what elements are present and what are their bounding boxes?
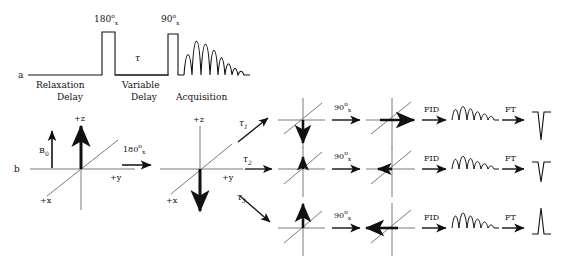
- row1-axes-before: [278, 98, 325, 148]
- svg-text:90ox: 90ox: [334, 100, 352, 113]
- panel-a-letter: a: [18, 70, 24, 80]
- row3-pulse-phase: x: [348, 214, 352, 221]
- row1-ft-label: FT: [505, 105, 517, 114]
- row1-pulse-angle: 90: [334, 103, 344, 112]
- row3-spectrum-peak: [532, 208, 551, 234]
- row1-axes-after: [366, 98, 415, 148]
- row3-fid-waveform: [452, 213, 499, 228]
- axis-label-x-frame2: +x: [166, 196, 178, 205]
- branch-row-tau3: 90ox FID FT: [278, 203, 551, 256]
- row1-fid-waveform: [452, 107, 499, 121]
- sequence-segment-captions: Relaxation Delay Variable Delay Acquisit…: [36, 80, 227, 102]
- acquisition-label: Acquisition: [175, 92, 227, 102]
- row2-pulse-phase: x: [348, 155, 352, 162]
- axis-label-y-frame1: +y: [110, 173, 122, 182]
- acquisition-fid-waveform: [184, 41, 250, 75]
- tau-branch-arrows: τ1 τ2 τ3: [237, 118, 272, 222]
- row2-spectrum-peak: [532, 162, 551, 182]
- pulse-180-phase: x: [115, 19, 119, 26]
- axis-label-z-frame1: +z: [74, 114, 85, 123]
- row3-ft-label: FT: [505, 213, 517, 222]
- svg-text:90ox: 90ox: [161, 12, 180, 26]
- axis-label-x-frame1: +x: [40, 196, 52, 205]
- tau2-label: τ2: [243, 154, 252, 166]
- row1-fid-arrow: FID: [422, 105, 446, 120]
- row1-fid-label: FID: [424, 105, 439, 114]
- row1-pulse-90: 90ox: [332, 100, 360, 120]
- tau1-label: τ1: [239, 118, 248, 130]
- transition-180-pulse: 180ox: [122, 142, 151, 165]
- row2-pulse-angle: 90: [334, 152, 344, 161]
- svg-text:90ox: 90ox: [334, 208, 352, 221]
- row2-fid-arrow: FID: [422, 154, 446, 169]
- branch-row-tau2: 90ox FID FT: [278, 147, 551, 197]
- row1-ft-arrow: FT: [502, 105, 524, 120]
- panel-a-pulse-sequence: a 180ox 90ox τ Relaxation Delay: [18, 12, 250, 102]
- pulse-90-degree: o: [172, 12, 176, 19]
- row2-pulse-90: 90ox: [332, 149, 360, 169]
- pulse-90-phase: x: [176, 19, 180, 26]
- vector-frame-equilibrium: B0 +z +y +x: [30, 114, 135, 210]
- panel-b-vector-model: b B0 +z +y +x 180ox: [14, 98, 551, 256]
- row3-pulse-90: 90ox: [332, 208, 360, 228]
- pulse-90-angle: 90: [161, 14, 173, 24]
- transition-180-angle: 180: [123, 145, 138, 154]
- svg-text:90ox: 90ox: [334, 149, 352, 162]
- vector-frame-inverted: +z +y +x: [160, 115, 243, 212]
- row2-state-after: [366, 147, 415, 197]
- row1-state-before: [278, 98, 325, 148]
- row2-ft-label: FT: [505, 154, 517, 163]
- variable-delay-line2: Delay: [131, 92, 158, 102]
- row1-state-after: [366, 98, 415, 148]
- tau3-label: τ3: [237, 192, 246, 204]
- row3-fid-label: FID: [424, 213, 439, 222]
- svg-text:180ox: 180ox: [94, 12, 119, 26]
- axis-label-z-frame2: +z: [193, 115, 204, 124]
- variable-delay-tau-symbol: τ: [135, 53, 141, 63]
- variable-delay-line1: Variable: [121, 80, 160, 90]
- relaxation-delay-line2: Delay: [57, 92, 84, 102]
- b0-label: B0: [39, 146, 49, 157]
- row3-ft-arrow: FT: [502, 213, 524, 228]
- row2-axes-before: [278, 147, 325, 197]
- row3-fid-arrow: FID: [422, 213, 446, 228]
- row2-ft-arrow: FT: [502, 154, 524, 169]
- pulse-label-180: 180ox: [94, 12, 119, 26]
- row2-state-before: [278, 147, 325, 197]
- pulse-sequence-trace: [28, 32, 184, 75]
- row2-fid-label: FID: [424, 154, 439, 163]
- svg-text:180ox: 180ox: [123, 142, 146, 155]
- row3-axes-before: [278, 203, 325, 256]
- pulse-180-degree: o: [111, 12, 115, 19]
- row2-axes-after: [366, 147, 415, 197]
- figure-canvas: a 180ox 90ox τ Relaxation Delay: [0, 0, 561, 269]
- relaxation-delay-line1: Relaxation: [36, 80, 85, 90]
- axis-label-y-frame2: +y: [222, 173, 234, 182]
- inversion-recovery-figure: a 180ox 90ox τ Relaxation Delay: [0, 0, 561, 269]
- row1-pulse-phase: x: [348, 106, 352, 113]
- row3-axes-after: [366, 203, 415, 256]
- transition-180-phase: x: [142, 148, 146, 155]
- pulse-180-angle: 180: [94, 14, 111, 24]
- row3-state-before: [278, 203, 325, 256]
- row3-pulse-angle: 90: [334, 211, 344, 220]
- pulse-label-90: 90ox: [161, 12, 180, 26]
- row1-spectrum-peak: [532, 112, 551, 140]
- branch-row-tau1: 90ox FID: [278, 98, 551, 148]
- row2-fid-waveform: [452, 156, 499, 169]
- row3-state-after: [366, 203, 415, 256]
- panel-b-letter: b: [14, 164, 20, 174]
